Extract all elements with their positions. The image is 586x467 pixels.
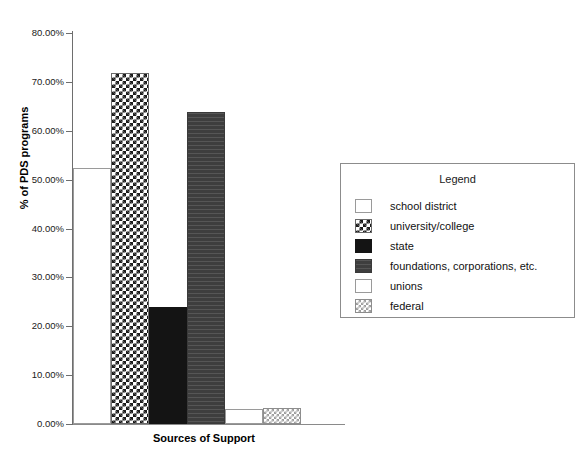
- bar: [73, 168, 111, 424]
- bar-chart: 0.00%10.00%20.00%30.00%40.00%50.00%60.00…: [0, 0, 586, 467]
- y-tick-label: 20.00%: [6, 321, 64, 331]
- legend: Legend school districtuniversity/college…: [340, 163, 575, 318]
- legend-item-label: unions: [390, 280, 422, 292]
- legend-item-label: university/college: [390, 220, 474, 232]
- bar: [149, 307, 187, 424]
- legend-item-list: school districtuniversity/collegestatefo…: [355, 196, 568, 316]
- plot-area: [73, 33, 335, 424]
- y-tick-label: 10.00%: [6, 370, 64, 380]
- legend-item-label: school district: [390, 200, 457, 212]
- legend-item: university/college: [355, 216, 568, 235]
- y-tick: 60.00%: [0, 126, 64, 136]
- y-tick: 20.00%: [0, 321, 64, 331]
- legend-item: federal: [355, 296, 568, 315]
- legend-item: unions: [355, 276, 568, 295]
- legend-swatch-icon: [355, 199, 372, 213]
- y-tick-label: 50.00%: [6, 175, 64, 185]
- y-axis-title: % of PDS programs: [18, 58, 30, 258]
- y-tick-label: 0.00%: [6, 419, 64, 429]
- x-axis-title: Sources of Support: [73, 432, 335, 444]
- legend-swatch-icon: [355, 279, 372, 293]
- y-tick-label: 70.00%: [6, 77, 64, 87]
- legend-swatch-icon: [355, 239, 372, 253]
- legend-swatch-icon: [355, 299, 372, 313]
- y-tick: 80.00%: [0, 28, 64, 38]
- y-tick: 0.00%: [0, 419, 64, 429]
- y-tick: 40.00%: [0, 224, 64, 234]
- bar: [187, 112, 225, 424]
- legend-item-label: federal: [390, 300, 424, 312]
- y-tick-label: 60.00%: [6, 126, 64, 136]
- y-tick: 70.00%: [0, 77, 64, 87]
- y-tick: 30.00%: [0, 272, 64, 282]
- legend-item: state: [355, 236, 568, 255]
- legend-item-label: state: [390, 240, 414, 252]
- y-tick: 50.00%: [0, 175, 64, 185]
- bar: [225, 409, 263, 424]
- legend-title: Legend: [341, 173, 574, 185]
- legend-swatch-icon: [355, 219, 372, 233]
- legend-item-label: foundations, corporations, etc.: [390, 260, 537, 272]
- y-tick: 10.00%: [0, 370, 64, 380]
- bar: [111, 73, 149, 424]
- legend-item: foundations, corporations, etc.: [355, 256, 568, 275]
- y-tick-label: 40.00%: [6, 224, 64, 234]
- x-axis-line: [73, 424, 345, 425]
- legend-item: school district: [355, 196, 568, 215]
- y-tick-label: 30.00%: [6, 272, 64, 282]
- y-tick-label: 80.00%: [6, 28, 64, 38]
- bar: [263, 408, 301, 424]
- legend-swatch-icon: [355, 259, 372, 273]
